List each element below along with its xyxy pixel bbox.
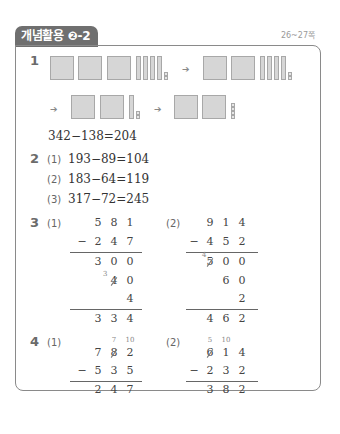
hundred-block bbox=[203, 56, 227, 80]
problem-4-1-label: (1) bbox=[47, 337, 61, 348]
problem-2-1-label: (1) bbox=[47, 154, 61, 165]
hundred-block bbox=[174, 95, 198, 119]
problem-3-2-label: (2) bbox=[166, 218, 180, 229]
arrow-icon: ➔ bbox=[182, 64, 190, 74]
ten-rod bbox=[150, 56, 155, 80]
problem-2-3-label: (3) bbox=[47, 194, 61, 205]
hundred-block bbox=[50, 56, 74, 80]
arrow-icon: ➔ bbox=[50, 104, 58, 114]
ten-rod bbox=[267, 56, 272, 80]
problem-4-number: 4 bbox=[30, 334, 39, 349]
ten-rod bbox=[281, 56, 286, 80]
one-cube bbox=[231, 115, 235, 119]
one-cube bbox=[288, 76, 292, 80]
problem-1-number: 1 bbox=[30, 53, 39, 68]
one-cube bbox=[164, 76, 168, 80]
problem-3-1-label: (1) bbox=[47, 218, 61, 229]
one-cube bbox=[136, 115, 140, 119]
hundred-block bbox=[71, 95, 95, 119]
hundred-block bbox=[202, 95, 226, 119]
ten-rod bbox=[274, 56, 279, 80]
arrow-icon: ➔ bbox=[154, 104, 162, 114]
hundred-block bbox=[78, 56, 102, 80]
hundred-block bbox=[231, 56, 255, 80]
ten-rod bbox=[157, 56, 162, 80]
ten-rod bbox=[260, 56, 265, 80]
section-title: 개념활용 ❷-2 bbox=[21, 29, 90, 43]
page-reference: 26~27쪽 bbox=[281, 29, 315, 40]
problem-2-number: 2 bbox=[30, 151, 39, 166]
problem-3-number: 3 bbox=[30, 215, 39, 230]
problem-2-1-equation: 193−89=104 bbox=[68, 152, 149, 166]
hundred-block bbox=[107, 56, 131, 80]
ten-rod bbox=[129, 95, 134, 119]
problem-2-2-label: (2) bbox=[47, 174, 61, 185]
problem-2-2-equation: 183−64=119 bbox=[68, 172, 149, 186]
ten-rod bbox=[136, 56, 141, 80]
hundred-block bbox=[100, 95, 124, 119]
borrow-mark: 3 bbox=[103, 270, 107, 278]
problem-1-equation: 342−138=204 bbox=[48, 129, 137, 143]
section-title-tab: 개념활용 ❷-2 bbox=[15, 26, 98, 47]
problem-2-3-equation: 317−72=245 bbox=[68, 192, 149, 206]
problem-4-2-label: (2) bbox=[166, 337, 180, 348]
ten-rod bbox=[143, 56, 148, 80]
